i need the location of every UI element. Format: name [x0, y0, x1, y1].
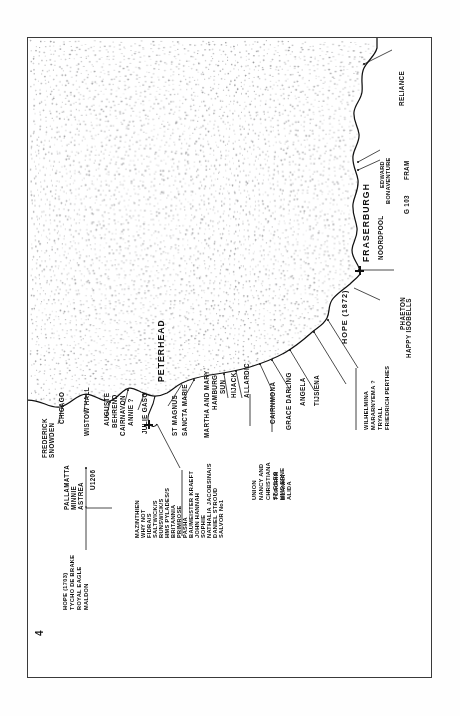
label-astrea: ASTREA — [78, 482, 84, 510]
label-u1206: U1206 — [90, 470, 96, 490]
label-cairnmona: CAIRNMONA — [270, 382, 276, 424]
wreck-dot — [193, 379, 195, 381]
label-happy-isobells: HAPPY ISOBELLS — [406, 298, 412, 358]
coastline-path — [28, 38, 377, 407]
label-behrend: BEHREND — [112, 394, 118, 428]
list-item: ROYAL EAGLE — [77, 566, 83, 610]
list-item: ST GILES — [273, 472, 279, 500]
label-grace-darling: GRACE DARLING — [286, 372, 292, 430]
wreck-dot — [223, 373, 225, 375]
list-item: NANCY AND — [259, 464, 265, 500]
label-sancta-marie: SANCTA MARIE — [182, 384, 188, 436]
label-reliance: RELIANCE — [399, 71, 405, 106]
label-martha-and-mary: MARTHA AND MARY — [204, 370, 210, 438]
wreck-dot — [363, 63, 365, 65]
wreck-dot — [127, 389, 129, 391]
label-bonaventure: BONAVENTURE — [386, 157, 392, 204]
list-item: CHRISTIANA — [266, 462, 272, 500]
wreck-dot — [358, 269, 360, 271]
map-page: RELIANCE EDWARD BONAVENTURE FRAM G 103 N… — [0, 0, 460, 716]
list-item: TYCHO DE BRAKE — [70, 555, 76, 610]
list-item: UNION — [252, 480, 258, 500]
wreck-dot — [357, 161, 359, 163]
label-cairnavon: CAIRNAVON — [120, 395, 126, 436]
label-chicago: CHICAGO — [59, 392, 65, 424]
wreck-dot — [357, 169, 359, 171]
list-item: TRYALL — [378, 407, 384, 430]
label-allardic: ALLARDIC — [244, 363, 250, 398]
wreck-dot — [259, 363, 261, 365]
label-wistow-hall: WISTOW HALL — [84, 387, 90, 436]
list-item: SALVOR No1 — [219, 499, 225, 538]
list-item: MALDON — [84, 583, 90, 610]
label-hijack: HIJACK — [231, 372, 237, 398]
label-tijsiena: TIJSIENA — [314, 375, 320, 406]
leader-lines — [58, 50, 394, 508]
label-st-magnus: ST MAGNUS — [172, 395, 178, 436]
page-number: 4 — [34, 630, 45, 636]
wreck-dot — [271, 359, 273, 361]
label-noordpool: NOORDPOOL — [378, 216, 384, 260]
label-hamburg: HAMBURG — [212, 375, 218, 410]
label-angela: ANGELA — [300, 377, 306, 406]
list-item: FRIEDRICH PERTHES — [385, 366, 391, 430]
list-item: ALIDA — [287, 481, 293, 500]
label-auguste: AUGUSTE — [104, 393, 110, 426]
wreck-dot — [327, 319, 329, 321]
label-hope-1872: HOPE (1872) — [341, 290, 348, 344]
label-peterhead: PETERHEAD — [157, 319, 166, 382]
label-fram: FRAM — [404, 160, 410, 180]
list-item: MARARNYEMA ? — [371, 380, 377, 430]
list-item: HOPE (1703) — [63, 573, 69, 610]
label-annie: ANNIE ? — [128, 398, 134, 426]
label-fraserburgh: FRASERBURGH — [362, 183, 371, 262]
label-snowden: SNOWDEN — [49, 423, 55, 458]
wreck-dot — [289, 349, 291, 351]
list-item: WILHELMINA — [364, 391, 370, 430]
label-julie-gaso: JULIE GASO — [142, 392, 148, 434]
wreck-dot — [313, 331, 315, 333]
wreck-dot — [85, 467, 87, 469]
label-g103: G 103 — [404, 195, 410, 214]
map-frame: RELIANCE EDWARD BONAVENTURE FRAM G 103 N… — [27, 37, 432, 678]
list-item: HMS ERNE — [280, 468, 286, 500]
label-sun: SUN — [220, 380, 226, 394]
